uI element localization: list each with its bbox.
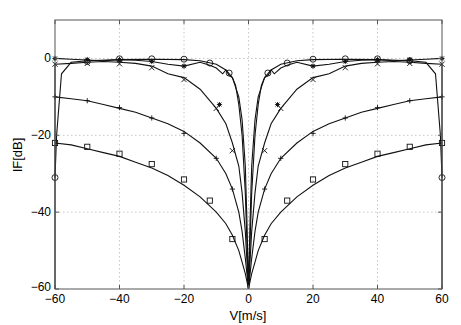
marker-plus: [407, 98, 412, 103]
marker-plus: [375, 105, 380, 110]
marker-plus: [343, 115, 348, 120]
x-tick-label: 20: [306, 292, 320, 306]
marker-plus: [117, 105, 122, 110]
x-tick-label: 40: [371, 292, 385, 306]
marker-plus: [230, 186, 235, 191]
chart: −60−40−200204060 0−20−40−60 V[m/s] IF[dB…: [0, 0, 461, 325]
marker-plus: [262, 186, 267, 191]
y-tick-label: 0: [44, 51, 51, 65]
y-tick-labels: 0−20−40−60: [31, 51, 52, 294]
x-axis-label: V[m/s]: [230, 308, 267, 323]
curve-line: [55, 62, 442, 290]
marker-square: [149, 162, 154, 167]
marker-star-dot: [344, 60, 347, 63]
marker-star-dot: [118, 58, 121, 61]
y-tick-label: −20: [31, 128, 52, 142]
marker-plus: [85, 98, 90, 103]
series-x: [52, 61, 444, 289]
y-axis-label: IF[dB]: [10, 138, 25, 173]
x-tick-label: −20: [174, 292, 195, 306]
marker-square: [285, 198, 290, 203]
marker-star-dot: [86, 58, 89, 61]
marker-plus: [149, 115, 154, 120]
marker-plus: [181, 131, 186, 136]
x-tick-label: −60: [45, 292, 66, 306]
marker-x: [214, 106, 219, 111]
x-tick-label: −40: [109, 292, 130, 306]
marker-star-dot: [376, 58, 379, 61]
marker-square: [343, 162, 348, 167]
y-tick-label: −40: [31, 205, 52, 219]
marker-x: [278, 106, 283, 111]
marker-star-dot: [312, 65, 315, 68]
curve-line: [55, 59, 442, 289]
y-tick-label: −60: [31, 280, 52, 294]
marker-star-dot: [408, 58, 411, 61]
marker-square: [207, 198, 212, 203]
x-tick-labels: −60−40−200204060: [45, 292, 449, 306]
x-tick-label: 0: [245, 292, 252, 306]
series-plus: [52, 94, 444, 289]
x-tick-label: 60: [435, 292, 449, 306]
marker-star-dot: [150, 60, 153, 63]
marker-star-dot: [183, 65, 186, 68]
